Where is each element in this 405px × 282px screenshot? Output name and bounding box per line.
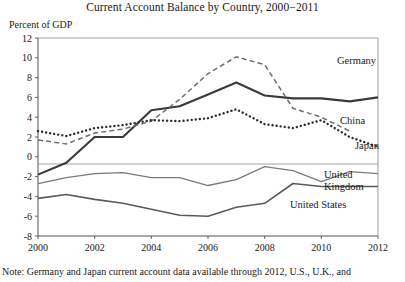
y-tick-label: -8 — [24, 231, 32, 242]
x-tick-label: 2000 — [28, 242, 48, 253]
x-tick-label: 2010 — [311, 242, 331, 253]
series-label-germany: Germany — [337, 55, 377, 66]
x-tick-label: 2004 — [141, 242, 161, 253]
y-tick-label: 6 — [27, 92, 32, 103]
y-axis-ticks: 121086420-2-4-6-8 — [22, 33, 38, 242]
x-tick-label: 2006 — [198, 242, 218, 253]
x-axis-ticks: 2000200220042006200820102012 — [28, 236, 388, 253]
chart-figure: Current Account Balance by Country, 2000… — [0, 0, 405, 282]
y-tick-label: 10 — [22, 52, 32, 63]
series-label-china: China — [340, 115, 365, 126]
y-tick-label: 0 — [27, 151, 32, 162]
y-tick-label: -2 — [24, 171, 32, 182]
series-label-united-kingdom-line2: Kingdom — [324, 181, 364, 192]
y-tick-label: 2 — [27, 132, 32, 143]
series-label-united-kingdom-line1: United — [324, 169, 353, 180]
series-label-japan: Japan — [355, 140, 380, 151]
x-tick-label: 2012 — [368, 242, 388, 253]
y-tick-label: 12 — [22, 33, 32, 44]
y-tick-label: -4 — [24, 191, 32, 202]
data-series-group — [38, 57, 378, 216]
x-tick-label: 2008 — [255, 242, 275, 253]
y-tick-label: 4 — [27, 112, 32, 123]
y-tick-label: -6 — [24, 211, 32, 222]
chart-footnote: Note: Germany and Japan current account … — [2, 266, 351, 277]
y-tick-label: 8 — [27, 72, 32, 83]
chart-plot-area: 121086420-2-4-6-8 2000200220042006200820… — [0, 0, 405, 282]
series-label-united-states: United States — [290, 199, 346, 210]
series-line-germany — [38, 83, 378, 175]
x-tick-label: 2002 — [85, 242, 105, 253]
